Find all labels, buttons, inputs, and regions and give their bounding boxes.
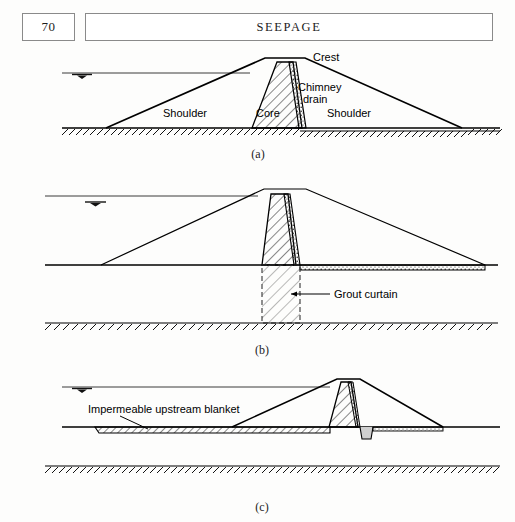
grout-curtain-leader-b xyxy=(291,292,330,297)
page-number-box: 70 xyxy=(22,13,75,41)
bedrock-hatching-b xyxy=(45,324,492,330)
water-table-symbol-a xyxy=(72,75,92,80)
caption-a: (a) xyxy=(251,147,264,161)
page-number-text: 70 xyxy=(42,19,56,35)
toe-drain-trench-c xyxy=(360,427,373,439)
figure-b: Grout curtain xyxy=(0,172,515,366)
label-grout-curtain-b: Grout curtain xyxy=(334,288,398,300)
water-table-symbol-c xyxy=(72,389,92,394)
label-chimney-drain-line2-a: drain xyxy=(303,93,327,105)
caption-c: (c) xyxy=(255,500,268,514)
ground-hatching-a xyxy=(62,129,502,137)
figure-a: Crest Chimney drain Core Shoulder Should… xyxy=(0,46,515,172)
label-core-a: Core xyxy=(256,107,280,119)
caption-b: (b) xyxy=(255,343,269,357)
bedrock-hatching-c xyxy=(45,467,499,473)
upstream-blanket-strip-c xyxy=(95,427,330,433)
label-upstream-blanket-c: Impermeable upstream blanket xyxy=(88,403,240,415)
label-crest-a: Crest xyxy=(313,51,339,63)
label-chimney-drain-line1-a: Chimney xyxy=(298,81,342,93)
label-shoulder-downstream-a: Shoulder xyxy=(327,107,371,119)
water-table-symbol-b xyxy=(85,202,106,207)
running-head-box: SEEPAGE xyxy=(85,13,493,41)
page-canvas: 70 SEEPAGE xyxy=(0,0,515,522)
blanket-drain-strip-b xyxy=(300,265,485,270)
label-shoulder-upstream-a: Shoulder xyxy=(163,107,207,119)
running-head-text: SEEPAGE xyxy=(257,20,322,35)
page-header: 70 SEEPAGE xyxy=(0,0,515,46)
figure-c: Impermeable upstream blanket xyxy=(0,366,515,522)
downstream-drain-strip-c xyxy=(373,427,443,431)
